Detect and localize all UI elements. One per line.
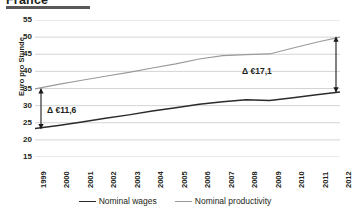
y-tick-label: 25 xyxy=(14,119,32,127)
delta-arrow-head-top xyxy=(38,88,43,93)
y-tick-label: 30 xyxy=(14,102,32,110)
x-tick-label: 2008 xyxy=(250,171,259,188)
x-tick-label: 2004 xyxy=(156,171,165,188)
x-tick-label: 2009 xyxy=(274,171,283,188)
plot-area xyxy=(35,20,340,157)
legend-label-productivity: Nominal productivity xyxy=(195,196,272,206)
delta-annotation-2012: Δ €17,1 xyxy=(242,66,272,76)
series-lines xyxy=(35,37,340,128)
x-tick-label: 1999 xyxy=(39,171,48,188)
x-tick-label: 2007 xyxy=(227,171,236,188)
y-axis-tick-labels: 152025303540455055 xyxy=(12,0,32,213)
y-tick-label: 55 xyxy=(14,16,32,24)
delta-annotation-1999: Δ €11,6 xyxy=(47,105,76,115)
y-tick-label: 15 xyxy=(14,153,32,161)
x-tick-label: 2011 xyxy=(321,172,330,188)
legend-label-wages: Nominal wages xyxy=(99,196,157,206)
legend-swatch-wages xyxy=(79,201,96,202)
legend-item-wages[interactable]: Nominal wages xyxy=(79,196,157,206)
y-tick-label: 40 xyxy=(14,67,32,75)
x-tick-label: 2000 xyxy=(62,171,71,188)
series-line-nominal-productivity xyxy=(35,37,340,89)
delta-arrows xyxy=(38,37,338,130)
x-tick-label: 2010 xyxy=(297,171,306,188)
y-tick-label: 35 xyxy=(14,85,32,93)
legend-swatch-productivity xyxy=(175,201,192,202)
gridlines xyxy=(35,20,340,157)
x-tick-label: 2002 xyxy=(109,171,118,188)
y-tick-label: 50 xyxy=(14,33,32,41)
x-axis-tick-labels: 1999200020012002200320042005200620072008… xyxy=(35,158,340,194)
chart-svg xyxy=(35,20,340,157)
legend-item-productivity[interactable]: Nominal productivity xyxy=(175,196,272,206)
x-tick-label: 2003 xyxy=(133,171,142,188)
x-tick-label: 2012 xyxy=(344,171,353,188)
x-tick-label: 2006 xyxy=(203,171,212,188)
x-tick-label: 2001 xyxy=(86,171,95,188)
x-tick-label: 2005 xyxy=(180,171,189,188)
chart-legend: Nominal wagesNominal productivity xyxy=(0,196,350,206)
y-tick-label: 20 xyxy=(14,136,32,144)
y-tick-label: 45 xyxy=(14,50,32,58)
